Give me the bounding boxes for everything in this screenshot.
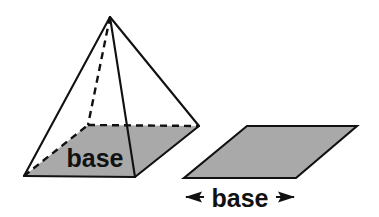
- solid-edge-left-to-front: [24, 176, 135, 177]
- base-parallelogram-shape: [184, 126, 357, 178]
- pyramid-group: base: [24, 17, 199, 177]
- figure-svg: base base: [0, 0, 379, 217]
- geometry-diagram-canvas: base base: [0, 0, 379, 217]
- pyramid-base-label: base: [67, 144, 124, 172]
- solid-edge-apex-to-right: [110, 17, 199, 126]
- base-parallelogram-group: base: [184, 126, 357, 212]
- dashed-edge-apex-to-back: [88, 17, 110, 125]
- base-parallelogram-label: base: [212, 184, 269, 212]
